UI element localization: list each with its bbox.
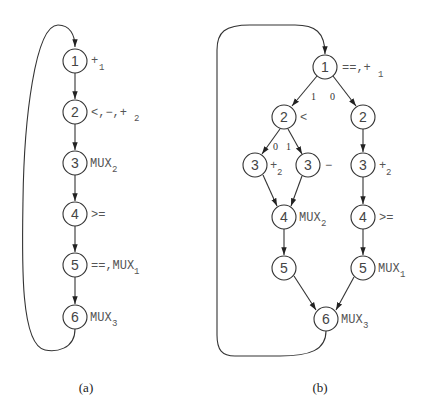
node-b-3-middle: 3 −	[296, 153, 332, 177]
svg-text:1: 1	[400, 270, 405, 280]
diagram-a: 1 + 1 2 <,−,+ 2 3 MUX 2 4 >= 5 ==,MUX 1	[22, 25, 139, 395]
diagram-canvas: 1 + 1 2 <,−,+ 2 3 MUX 2 4 >= 5 ==,MUX 1	[0, 0, 431, 415]
diagram-b: 1 0 0 1 1 ==,+ 1 2 < 2 3 + 2 3 −	[217, 25, 405, 395]
caption-a: (a)	[79, 380, 93, 395]
node-b-3-left: 3 + 2	[243, 153, 282, 178]
svg-text:MUX: MUX	[341, 313, 363, 327]
svg-text:MUX: MUX	[90, 157, 112, 171]
node-a-1: 1 + 1	[63, 49, 104, 73]
svg-text:4: 4	[280, 209, 288, 225]
svg-text:1: 1	[134, 267, 139, 277]
edge-b-3b-4l	[291, 176, 302, 206]
node-a-3: 3 MUX 2	[63, 151, 117, 175]
svg-text:2: 2	[321, 219, 326, 229]
branch-label-2-left: 0	[273, 141, 278, 152]
node-b-3-right: 3 + 2	[351, 153, 391, 178]
node-b-2-right: 2	[351, 105, 375, 129]
loop-edge-b	[217, 25, 326, 356]
loop-edge-a	[22, 25, 75, 351]
branch-label-1-right: 0	[330, 91, 335, 102]
svg-text:3: 3	[251, 157, 259, 173]
edge-b-5l-6	[294, 276, 316, 310]
svg-text:2: 2	[277, 168, 282, 178]
svg-text:3: 3	[304, 157, 312, 173]
node-a-6: 6 MUX 3	[63, 305, 117, 329]
svg-text:2: 2	[71, 104, 79, 120]
svg-text:3: 3	[363, 321, 368, 331]
node-b-6: 6 MUX 3	[314, 307, 368, 331]
svg-text:1: 1	[99, 63, 104, 73]
svg-text:4: 4	[359, 209, 367, 225]
svg-text:3: 3	[359, 157, 367, 173]
node-a-2: 2 <,−,+ 2	[63, 100, 139, 124]
svg-text:6: 6	[322, 311, 330, 327]
caption-b: (b)	[312, 380, 327, 395]
svg-text:<,−,+: <,−,+	[91, 106, 127, 120]
node-b-2-left: 2 <	[272, 105, 307, 129]
edge-b-1-2r	[333, 76, 356, 106]
svg-text:MUX: MUX	[378, 262, 400, 276]
svg-text:>=: >=	[91, 208, 105, 222]
svg-text:MUX: MUX	[90, 311, 112, 325]
svg-text:5: 5	[71, 257, 79, 273]
node-b-5-right: 5 MUX 1	[351, 256, 405, 280]
svg-text:2: 2	[134, 114, 139, 124]
svg-text:5: 5	[280, 260, 288, 276]
node-b-4-right: 4 >=	[351, 205, 393, 229]
svg-text:6: 6	[71, 309, 79, 325]
svg-text:+: +	[91, 54, 98, 68]
branch-label-1-left: 1	[311, 91, 316, 102]
svg-text:<: <	[300, 111, 307, 125]
svg-text:1: 1	[71, 53, 79, 69]
svg-text:1: 1	[378, 70, 383, 80]
svg-text:==,+: ==,+	[342, 61, 371, 75]
svg-text:2: 2	[359, 109, 367, 125]
edge-b-3a-4l	[263, 175, 277, 206]
svg-text:−: −	[325, 159, 332, 173]
svg-text:2: 2	[280, 109, 288, 125]
svg-text:3: 3	[71, 155, 79, 171]
node-b-1: 1 ==,+ 1	[313, 55, 383, 80]
node-a-5: 5 ==,MUX 1	[63, 253, 139, 277]
svg-text:2: 2	[112, 165, 117, 175]
svg-text:==,MUX: ==,MUX	[91, 259, 134, 273]
svg-text:1: 1	[321, 59, 329, 75]
svg-text:MUX: MUX	[299, 211, 321, 225]
svg-text:>=: >=	[379, 211, 393, 225]
node-a-4: 4 >=	[63, 202, 105, 226]
node-b-4-left: 4 MUX 2	[272, 205, 326, 229]
svg-text:5: 5	[359, 260, 367, 276]
svg-text:4: 4	[71, 206, 79, 222]
node-b-5-left: 5	[272, 256, 296, 280]
svg-text:2: 2	[386, 168, 391, 178]
branch-label-2-right: 1	[286, 141, 291, 152]
svg-text:3: 3	[112, 319, 117, 329]
edge-b-5r-6	[336, 277, 354, 310]
